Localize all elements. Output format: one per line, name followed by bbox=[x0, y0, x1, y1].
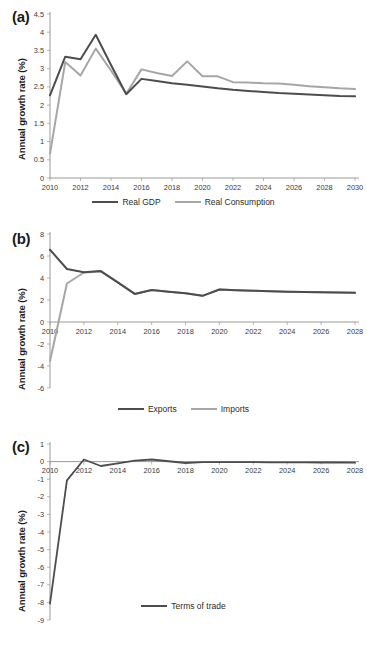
legend-swatch-real-gdp bbox=[92, 201, 118, 203]
svg-text:2018: 2018 bbox=[177, 327, 193, 336]
plot-area-b: -6-4-20246820102012201420162018202020222… bbox=[0, 220, 367, 405]
plot-area-a: 00.511.522.533.544.520102012201420162018… bbox=[0, 0, 367, 195]
series-line-imports bbox=[50, 271, 355, 361]
legend-b: Exports Imports bbox=[0, 405, 367, 414]
chart-panel-a: (a) Annual growth rate (%) 00.511.522.53… bbox=[0, 0, 367, 220]
svg-text:-2: -2 bbox=[37, 492, 44, 501]
svg-text:0: 0 bbox=[40, 457, 44, 466]
svg-text:0: 0 bbox=[40, 174, 44, 183]
legend-item-exports: Exports bbox=[118, 405, 177, 414]
svg-text:4: 4 bbox=[40, 274, 44, 283]
svg-text:2016: 2016 bbox=[133, 183, 149, 192]
legend-label-exports: Exports bbox=[148, 405, 177, 414]
svg-text:4.5: 4.5 bbox=[34, 10, 44, 19]
svg-text:4: 4 bbox=[40, 28, 44, 37]
svg-text:2016: 2016 bbox=[143, 466, 159, 475]
series-line-exports bbox=[50, 250, 355, 296]
svg-text:2024: 2024 bbox=[255, 183, 271, 192]
svg-text:0.5: 0.5 bbox=[34, 155, 44, 164]
svg-text:-4: -4 bbox=[37, 362, 44, 371]
svg-text:2028: 2028 bbox=[316, 183, 332, 192]
svg-text:2.5: 2.5 bbox=[34, 82, 44, 91]
svg-text:2024: 2024 bbox=[279, 466, 295, 475]
svg-text:2016: 2016 bbox=[143, 327, 159, 336]
panel-label-b: (b) bbox=[12, 230, 30, 247]
legend-item-real-gdp: Real GDP bbox=[92, 198, 160, 207]
legend-c: Terms of trade bbox=[0, 602, 367, 611]
chart-panel-c: (c) Annual growth rate (%) -9-8-7-6-5-4-… bbox=[0, 432, 367, 653]
legend-swatch-terms-of-trade bbox=[141, 605, 167, 607]
svg-text:2014: 2014 bbox=[103, 183, 119, 192]
svg-text:-6: -6 bbox=[37, 563, 44, 572]
svg-text:6: 6 bbox=[40, 252, 44, 261]
svg-text:2018: 2018 bbox=[177, 466, 193, 475]
svg-text:2030: 2030 bbox=[347, 183, 363, 192]
svg-text:1.5: 1.5 bbox=[34, 119, 44, 128]
svg-text:-2: -2 bbox=[37, 340, 44, 349]
legend-label-real-gdp: Real GDP bbox=[122, 198, 160, 207]
svg-text:0: 0 bbox=[40, 318, 44, 327]
svg-text:1: 1 bbox=[40, 137, 44, 146]
svg-text:2: 2 bbox=[40, 296, 44, 305]
svg-text:-7: -7 bbox=[37, 580, 44, 589]
svg-text:2020: 2020 bbox=[211, 327, 227, 336]
svg-text:-4: -4 bbox=[37, 528, 44, 537]
legend-item-real-consumption: Real Consumption bbox=[175, 198, 275, 207]
panel-label-a: (a) bbox=[12, 8, 29, 25]
svg-text:-9: -9 bbox=[37, 616, 44, 625]
svg-text:2012: 2012 bbox=[72, 183, 88, 192]
svg-text:2020: 2020 bbox=[194, 183, 210, 192]
svg-text:1: 1 bbox=[40, 440, 44, 449]
svg-text:2026: 2026 bbox=[313, 327, 329, 336]
legend-item-imports: Imports bbox=[191, 405, 249, 414]
svg-text:3.5: 3.5 bbox=[34, 46, 44, 55]
legend-item-terms-of-trade: Terms of trade bbox=[141, 602, 225, 611]
figure-container: (a) Annual growth rate (%) 00.511.522.53… bbox=[0, 0, 367, 653]
legend-a: Real GDP Real Consumption bbox=[0, 198, 367, 207]
series-line-terms-of-trade bbox=[50, 459, 355, 603]
svg-text:2014: 2014 bbox=[110, 327, 126, 336]
svg-text:2024: 2024 bbox=[279, 327, 295, 336]
svg-text:3: 3 bbox=[40, 64, 44, 73]
svg-text:2026: 2026 bbox=[286, 183, 302, 192]
svg-text:-6: -6 bbox=[37, 384, 44, 393]
svg-text:2010: 2010 bbox=[42, 183, 58, 192]
svg-text:8: 8 bbox=[40, 230, 44, 239]
svg-text:-3: -3 bbox=[37, 510, 44, 519]
legend-label-real-consumption: Real Consumption bbox=[205, 198, 275, 207]
svg-text:2014: 2014 bbox=[110, 466, 126, 475]
svg-text:2020: 2020 bbox=[211, 466, 227, 475]
svg-text:2026: 2026 bbox=[313, 466, 329, 475]
svg-text:2028: 2028 bbox=[347, 466, 363, 475]
svg-text:2022: 2022 bbox=[245, 466, 261, 475]
legend-label-terms-of-trade: Terms of trade bbox=[171, 602, 225, 611]
svg-text:2010: 2010 bbox=[42, 466, 58, 475]
legend-swatch-imports bbox=[191, 408, 217, 410]
svg-text:2018: 2018 bbox=[164, 183, 180, 192]
svg-text:-5: -5 bbox=[37, 545, 44, 554]
series-line-real-consumption bbox=[50, 49, 355, 154]
svg-text:2022: 2022 bbox=[245, 327, 261, 336]
svg-text:2012: 2012 bbox=[76, 327, 92, 336]
svg-text:2022: 2022 bbox=[225, 183, 241, 192]
chart-panel-b: (b) Annual growth rate (%) -6-4-20246820… bbox=[0, 220, 367, 432]
legend-swatch-exports bbox=[118, 408, 144, 410]
legend-swatch-real-consumption bbox=[175, 201, 201, 203]
panel-label-c: (c) bbox=[12, 438, 29, 455]
legend-label-imports: Imports bbox=[221, 405, 249, 414]
svg-text:2: 2 bbox=[40, 101, 44, 110]
svg-text:2028: 2028 bbox=[347, 327, 363, 336]
svg-text:-1: -1 bbox=[37, 475, 44, 484]
